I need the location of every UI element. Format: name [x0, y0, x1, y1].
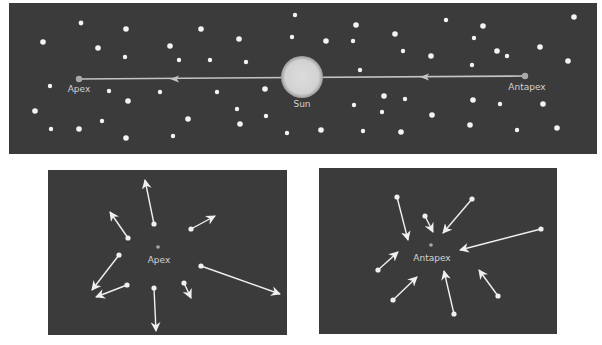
- proper-motion-arrow: [397, 197, 408, 240]
- star-icon: [285, 131, 289, 135]
- star-icon: [428, 53, 434, 59]
- star-icon: [123, 135, 129, 141]
- star-icon: [495, 293, 500, 298]
- star-icon: [237, 121, 243, 127]
- star-icon: [554, 125, 560, 131]
- proper-motion-arrow: [92, 255, 119, 290]
- proper-motion-arrow: [378, 252, 398, 270]
- proper-motion-arrow: [460, 229, 541, 250]
- star-icon: [125, 235, 130, 240]
- star-icon: [380, 110, 384, 114]
- star-icon: [32, 108, 38, 114]
- star-icon: [540, 101, 546, 107]
- star-icon: [123, 55, 127, 59]
- star-icon: [244, 60, 248, 64]
- star-icon: [403, 97, 407, 101]
- star-icon: [571, 14, 577, 20]
- star-icon: [290, 35, 294, 39]
- star-icon: [123, 26, 129, 32]
- star-icon: [469, 196, 474, 201]
- star-icon: [40, 39, 46, 45]
- star-icon: [472, 36, 476, 40]
- star-icon: [398, 129, 404, 135]
- star-icon: [185, 116, 191, 122]
- star-icon: [48, 84, 52, 88]
- proper-motion-arrow: [191, 216, 215, 229]
- star-icon: [264, 114, 268, 118]
- sun-disc: [281, 56, 323, 98]
- star-icon: [381, 93, 387, 99]
- star-icon: [188, 226, 193, 231]
- star-icon: [318, 127, 324, 133]
- proper-motion-arrow: [96, 285, 127, 297]
- sun-label: Sun: [293, 99, 310, 109]
- star-icon: [177, 58, 181, 62]
- star-icon: [470, 97, 476, 103]
- star-icon: [49, 127, 53, 131]
- star-icon: [151, 221, 156, 226]
- star-icon: [116, 252, 121, 257]
- star-icon: [565, 58, 571, 64]
- antapex-marker: [522, 73, 528, 79]
- star-icon: [235, 107, 239, 111]
- antapex-label: Antapex: [508, 82, 546, 92]
- proper-motion-arrow: [479, 270, 498, 296]
- star-icon: [79, 21, 84, 26]
- star-icon: [429, 112, 435, 118]
- proper-motion-arrow: [154, 288, 156, 331]
- apex-proper-motion-vectors: [92, 180, 280, 331]
- star-icon: [498, 102, 502, 106]
- star-icon: [323, 38, 329, 44]
- star-icon: [236, 36, 242, 42]
- star-icon: [361, 129, 365, 133]
- proper-motion-arrow: [110, 212, 128, 238]
- apex-center-marker: [156, 245, 160, 249]
- antapex-center-label: Antapex: [413, 253, 451, 263]
- diagram-canvas: Apex Antapex Sun Apex Antapex: [0, 0, 602, 345]
- star-icon: [505, 54, 509, 58]
- star-icon: [358, 68, 362, 72]
- star-icon: [181, 280, 186, 285]
- apex-label: Apex: [68, 84, 91, 94]
- star-icon: [107, 89, 111, 93]
- star-icon: [451, 311, 456, 316]
- star-icon: [125, 98, 131, 104]
- star-icon: [537, 44, 543, 50]
- star-icon: [151, 285, 156, 290]
- star-icon: [293, 13, 297, 17]
- proper-motion-arrow: [425, 216, 433, 232]
- star-icon: [198, 26, 204, 32]
- star-icon: [95, 45, 101, 51]
- antapex-proper-motion-vectors: [375, 194, 543, 316]
- star-icon: [375, 267, 380, 272]
- antapex-center-marker: [429, 243, 433, 247]
- star-icon: [480, 23, 486, 29]
- star-icon: [351, 39, 355, 43]
- star-icon: [100, 119, 104, 123]
- apex-marker: [76, 76, 82, 82]
- star-icon: [422, 213, 427, 218]
- apex-center-label: Apex: [148, 255, 171, 265]
- proper-motion-arrow: [145, 180, 154, 224]
- star-icon: [444, 18, 448, 22]
- star-icon: [198, 263, 203, 268]
- star-icon: [515, 128, 519, 132]
- star-icon: [158, 90, 162, 94]
- proper-motion-arrow: [443, 199, 472, 233]
- star-icon: [352, 103, 356, 107]
- star-icon: [538, 226, 543, 231]
- star-icon: [171, 134, 175, 138]
- star-icon: [215, 90, 219, 94]
- proper-motion-arrow: [444, 271, 454, 314]
- proper-motion-arrow: [201, 266, 280, 294]
- star-icon: [467, 122, 473, 128]
- star-icon: [494, 48, 500, 54]
- star-icon: [76, 126, 82, 132]
- star-icon: [208, 58, 212, 62]
- star-icon: [167, 43, 173, 49]
- star-icon: [390, 297, 395, 302]
- star-icon: [353, 22, 359, 28]
- star-icon: [401, 49, 405, 53]
- proper-motion-arrow: [393, 277, 417, 300]
- star-icon: [124, 282, 129, 287]
